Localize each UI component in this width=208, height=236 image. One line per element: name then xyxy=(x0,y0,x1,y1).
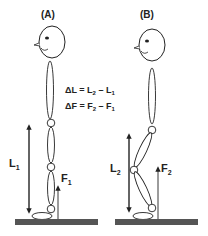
figure-a-head xyxy=(34,26,65,58)
panel-b-label: (B) xyxy=(140,9,154,20)
figure-b-trunk xyxy=(149,68,156,124)
nose-icon xyxy=(34,43,40,46)
figure-a-shank xyxy=(48,171,55,205)
figure-a-thigh xyxy=(48,127,55,163)
diagram-canvas: (A) L1 F1 ΔL = L2 – L1 ΔF = F2 – F1 (B) xyxy=(0,0,208,236)
equation-delta-l: ΔL = L2 – L1 xyxy=(65,85,115,96)
figure-a-knee-joint xyxy=(47,163,55,171)
eye-icon xyxy=(145,39,149,42)
figure-b-ankle-joint xyxy=(148,204,156,212)
equations: ΔL = L2 – L1 ΔF = F2 – F1 xyxy=(65,85,116,112)
figure-a-ankle-joint xyxy=(47,205,55,213)
length-label-a: L1 xyxy=(9,157,20,171)
force-label-a: F1 xyxy=(61,172,72,186)
eye-icon xyxy=(45,36,49,39)
figure-b-foot xyxy=(133,213,153,220)
figure-b-hip-joint xyxy=(148,126,156,134)
length-label-b: L2 xyxy=(110,162,121,176)
figure-a-foot xyxy=(32,213,52,220)
figure-b-head xyxy=(134,29,165,61)
figure-a-hip-joint xyxy=(47,119,55,127)
figure-b-thigh xyxy=(132,131,155,169)
ground-b xyxy=(115,219,198,225)
figure-b-shank xyxy=(132,170,155,208)
nose-icon xyxy=(134,46,140,49)
panel-b: (B) L2 F2 xyxy=(110,9,198,225)
panel-a-label: (A) xyxy=(41,9,55,20)
figure-a-trunk xyxy=(47,61,54,119)
panel-a: (A) L1 F1 xyxy=(9,9,98,225)
ground-a xyxy=(15,219,98,225)
force-label-b: F2 xyxy=(161,162,172,176)
equation-delta-f: ΔF = F2 – F1 xyxy=(65,101,116,112)
